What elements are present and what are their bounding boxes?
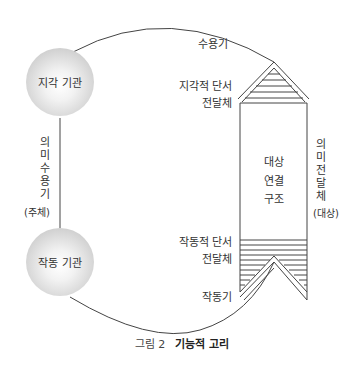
figure-title: 기능적 고리	[175, 338, 229, 351]
effector-cue-label-1: 작동적 단서	[179, 236, 233, 249]
perception-organ-label: 지각 기관	[38, 74, 82, 90]
perception-organ-sphere: 지각 기관	[26, 48, 94, 116]
object-label: (대상)	[313, 205, 339, 220]
receptor-label: 수용기	[198, 38, 228, 51]
figure-caption: 그림 2기능적 고리	[0, 335, 364, 351]
effector-organ-sphere: 작동 기관	[26, 228, 94, 296]
object-structure-label-1: 대상	[240, 156, 307, 169]
object-structure-label-3: 구조	[240, 193, 307, 206]
effector-organ-label: 작동 기관	[38, 254, 82, 270]
top-arc	[73, 28, 274, 62]
subject-label: (주체)	[24, 204, 50, 219]
bottom-arc	[70, 262, 274, 334]
perceptual-cue-label-1: 지각적 단서	[179, 80, 233, 93]
perceptual-cue-triangle	[238, 62, 309, 102]
figure-number: 그림 2	[135, 338, 166, 351]
effector-label: 작동기	[202, 291, 232, 304]
perceptual-cue-label-2: 전달체	[202, 97, 232, 110]
meaning-carrier-label: 의미전달체	[314, 138, 328, 203]
effector-chevron	[240, 256, 307, 300]
meaning-receiver-label: 의미수용기	[38, 136, 52, 201]
object-structure-label-2: 연결	[240, 175, 307, 188]
effector-cue-label-2: 전달체	[202, 253, 232, 266]
